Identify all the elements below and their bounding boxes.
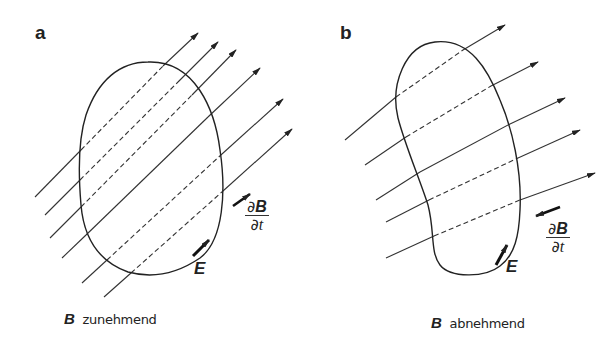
caption-text: abnehmend: [450, 316, 525, 331]
e-field-label-b: E: [506, 257, 517, 277]
dbdt-label-b: ∂B ∂t: [546, 220, 570, 255]
b-field-line: [62, 68, 260, 258]
partial-symbol: ∂: [251, 215, 259, 234]
t-symbol: t: [560, 238, 564, 255]
panel-b-conductor-loop: [396, 42, 520, 275]
panel-label-b: b: [340, 22, 352, 44]
b-symbol: B: [556, 220, 568, 237]
b-field-line: [82, 99, 283, 283]
t-symbol: t: [259, 216, 263, 233]
caption-b-symbol: B: [64, 310, 75, 327]
caption-text: zunehmend: [83, 312, 157, 327]
caption-b: Babnehmend: [431, 314, 525, 331]
e-field-label-a: E: [194, 259, 205, 279]
b-field-line: [345, 25, 505, 140]
panel-label-a: a: [35, 22, 46, 44]
caption-b-symbol: B: [431, 314, 442, 331]
partial-symbol: ∂: [552, 237, 560, 256]
b-field-line: [50, 50, 236, 238]
e-field-arrow-icon: [193, 240, 209, 256]
panel-a-field-lines: [35, 33, 292, 297]
caption-a: Bzunehmend: [64, 310, 157, 327]
diagram-canvas: [0, 0, 616, 346]
b-symbol: B: [255, 198, 267, 215]
b-field-line: [35, 33, 198, 197]
dbdt-arrow-icon: [536, 207, 560, 216]
dbdt-label-a: ∂B ∂t: [245, 198, 269, 233]
panel-a-conductor-loop: [79, 62, 223, 275]
b-field-line: [386, 130, 580, 222]
b-field-line: [365, 62, 538, 165]
b-field-line: [45, 42, 218, 215]
